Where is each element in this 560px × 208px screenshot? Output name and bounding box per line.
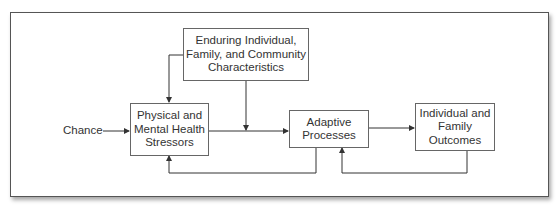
node-outcomes: Individual and Family Outcomes xyxy=(415,103,495,151)
node-stressors-line-2: Mental Health xyxy=(134,123,205,137)
node-health-stressors: Physical and Mental Health Stressors xyxy=(130,103,209,156)
node-adaptive-line-1: Adaptive xyxy=(302,116,356,130)
node-adaptive-processes: Adaptive Processes xyxy=(289,110,369,148)
node-enduring-line-2: Family, and Community xyxy=(186,48,306,62)
node-enduring-characteristics: Enduring Individual, Family, and Communi… xyxy=(183,28,309,81)
node-outcomes-line-1: Individual and xyxy=(420,107,491,121)
node-stressors-line-1: Physical and xyxy=(134,109,205,123)
node-stressors-line-3: Stressors xyxy=(134,136,205,150)
chance-label: Chance xyxy=(63,124,103,136)
node-outcomes-line-2: Family xyxy=(420,120,491,134)
node-outcomes-line-3: Outcomes xyxy=(420,134,491,148)
node-enduring-line-3: Characteristics xyxy=(186,61,306,75)
node-enduring-line-1: Enduring Individual, xyxy=(186,34,306,48)
node-adaptive-line-2: Processes xyxy=(302,129,356,143)
